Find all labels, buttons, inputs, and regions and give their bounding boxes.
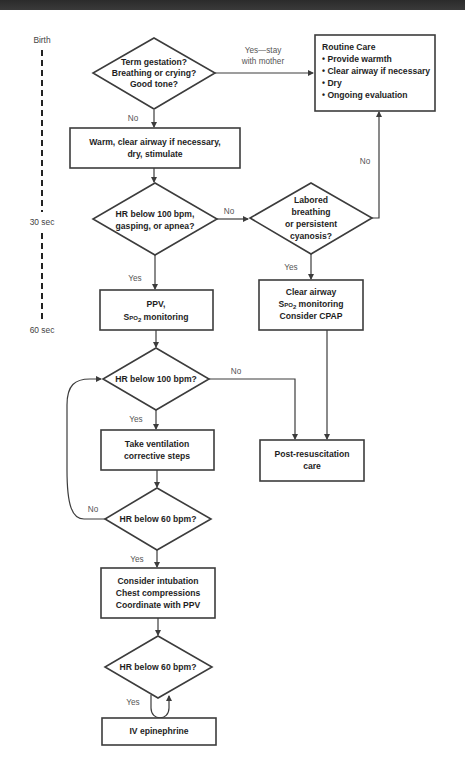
edge-hr100-to-post — [209, 379, 295, 439]
decision-hr-gasping-apnea: HR below 100 bpm, gasping, or apnea? — [93, 183, 217, 255]
svg-text:HR below 100 bpm?: HR below 100 bpm? — [115, 374, 197, 384]
box-routine-care: Routine Care • Provide warmth • Clear ai… — [315, 35, 435, 111]
svg-text:corrective steps: corrective steps — [124, 451, 190, 461]
timeline: Birth 30 sec 60 sec — [30, 35, 55, 335]
svg-text:Consider intubation: Consider intubation — [117, 576, 198, 586]
svg-text:Breathing or crying?: Breathing or crying? — [112, 68, 197, 78]
svg-text:• Clear airway if necessary: • Clear airway if necessary — [322, 66, 430, 76]
box-clear-airway-cpap: Clear airway SPO2 monitoring Consider CP… — [259, 280, 363, 330]
svg-text:gasping, or apnea?: gasping, or apnea? — [116, 221, 195, 231]
svg-text:Warm, clear airway if necessar: Warm, clear airway if necessary, — [89, 137, 220, 147]
label-no-labored: No — [360, 157, 371, 166]
svg-text:HR below 100 bpm,: HR below 100 bpm, — [116, 209, 195, 219]
svg-text:IV epinephrine: IV epinephrine — [129, 726, 188, 736]
svg-text:Labored: Labored — [294, 195, 328, 205]
svg-text:• Dry: • Dry — [322, 78, 342, 88]
svg-text:• Ongoing evaluation: • Ongoing evaluation — [322, 90, 408, 100]
routine-title: Routine Care — [322, 42, 376, 52]
label-yes-hr60a: Yes — [130, 555, 143, 564]
box-iv-epinephrine: IV epinephrine — [102, 718, 216, 745]
decision-hr-below-60-first: HR below 60 bpm? — [105, 488, 211, 550]
label-yes-hr60b: Yes — [126, 698, 139, 707]
decision-hr-below-60-second: HR below 60 bpm? — [105, 636, 212, 698]
label-no-initial: No — [128, 114, 139, 123]
decision-initial-assessment: Term gestation? Breathing or crying? Goo… — [93, 38, 215, 109]
svg-text:Chest compressions: Chest compressions — [116, 588, 201, 598]
svg-text:Post-resuscitation: Post-resuscitation — [275, 449, 350, 459]
svg-text:Clear airway: Clear airway — [286, 287, 337, 297]
box-intubation-compressions: Consider intubation Chest compressions C… — [101, 568, 215, 618]
svg-text:HR below 60 bpm?: HR below 60 bpm? — [120, 662, 197, 672]
timeline-60sec: 60 sec — [30, 325, 55, 335]
svg-text:HR below 60 bpm?: HR below 60 bpm? — [120, 514, 197, 524]
svg-text:care: care — [303, 461, 321, 471]
svg-text:PPV,: PPV, — [147, 299, 166, 309]
connectors — [67, 73, 379, 718]
svg-text:Consider CPAP: Consider CPAP — [280, 311, 343, 321]
decision-labored-breathing: Labored breathing or persistent cyanosis… — [250, 183, 372, 254]
svg-text:Take ventilation: Take ventilation — [125, 439, 189, 449]
label-no-hr100: No — [231, 367, 242, 376]
label-yes-hr100: Yes — [129, 415, 142, 424]
svg-text:dry, stimulate: dry, stimulate — [127, 149, 182, 159]
box-post-resuscitation: Post-resuscitation care — [260, 440, 364, 481]
edge-hr60b-iv-loop — [151, 695, 169, 718]
edge-labored-to-routine — [372, 112, 379, 218]
label-yes-stay: Yes—stay — [245, 46, 282, 55]
label-no-hrgasp: No — [224, 207, 235, 216]
svg-text:Coordinate with PPV: Coordinate with PPV — [116, 600, 201, 610]
svg-text:breathing: breathing — [291, 207, 330, 217]
resuscitation-flowchart: Birth 30 sec 60 sec Yes—stay with mother… — [0, 0, 465, 784]
box-ppv: PPV, SPO2 monitoring — [100, 290, 213, 330]
label-yes-labored: Yes — [284, 263, 297, 272]
svg-text:or persistent: or persistent — [285, 219, 337, 229]
label-no-hr60a: No — [88, 505, 99, 514]
box-ventilation-corrective: Take ventilation corrective steps — [101, 430, 214, 470]
timeline-birth: Birth — [33, 35, 51, 45]
svg-text:cyanosis?: cyanosis? — [290, 231, 332, 241]
edge-hr60a-loop-to-hr100 — [67, 379, 105, 519]
svg-text:• Provide warmth: • Provide warmth — [322, 54, 392, 64]
box-warm-dry-stimulate: Warm, clear airway if necessary, dry, st… — [70, 128, 240, 168]
label-yes-hrgasp: Yes — [128, 274, 141, 283]
timeline-30sec: 30 sec — [30, 217, 55, 227]
svg-text:Good tone?: Good tone? — [130, 79, 178, 89]
svg-text:Term gestation?: Term gestation? — [121, 57, 187, 67]
decision-hr-below-100: HR below 100 bpm? — [103, 348, 209, 410]
label-with-mother: with mother — [241, 57, 285, 66]
